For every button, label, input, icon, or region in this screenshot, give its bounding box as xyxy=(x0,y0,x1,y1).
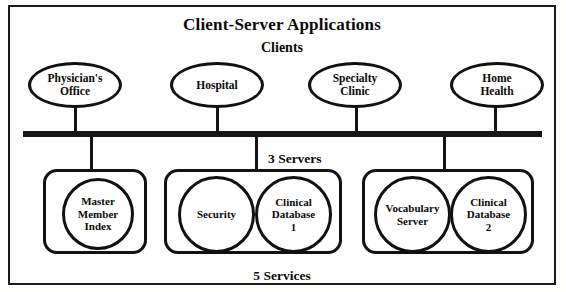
servers-caption: 3 Servers xyxy=(268,151,322,167)
service-node-clinical-database-2[interactable]: Clinical Database 2 xyxy=(450,176,527,253)
client-node-hospital[interactable]: Hospital xyxy=(170,62,264,108)
client-connector-specialty-clinic xyxy=(355,106,358,133)
client-label: Physician's Office xyxy=(48,72,103,98)
client-node-physicians-office[interactable]: Physician's Office xyxy=(28,62,122,108)
client-connector-physicians-office xyxy=(74,106,77,133)
server-drop-line-3 xyxy=(443,137,446,170)
service-label: Security xyxy=(197,208,236,221)
service-label: Master Member Index xyxy=(78,195,118,233)
client-node-specialty-clinic[interactable]: Specialty Clinic xyxy=(308,62,402,108)
server-box-2[interactable]: Security Clinical Database 1 xyxy=(164,169,342,254)
server-drop-line-1 xyxy=(90,137,93,170)
network-bus-line xyxy=(23,131,542,137)
service-node-security[interactable]: Security xyxy=(178,176,255,253)
diagram-title: Client-Server Applications xyxy=(10,15,554,35)
service-node-vocabulary-server[interactable]: Vocabulary Server xyxy=(374,176,451,253)
services-caption: 5 Services xyxy=(10,268,554,284)
screenshot-root: Client-Server Applications Clients Physi… xyxy=(0,0,566,292)
client-connector-home-health xyxy=(494,106,497,133)
server-drop-line-2 xyxy=(255,137,258,170)
clients-heading: Clients xyxy=(10,40,554,56)
service-node-master-member-index[interactable]: Master Member Index xyxy=(62,178,134,250)
service-label: Clinical Database 2 xyxy=(467,196,510,234)
client-label: Specialty Clinic xyxy=(333,72,378,98)
diagram-frame: Client-Server Applications Clients Physi… xyxy=(8,5,556,285)
client-node-home-health[interactable]: Home Health xyxy=(450,62,544,108)
service-node-clinical-database-1[interactable]: Clinical Database 1 xyxy=(255,176,332,253)
client-label: Hospital xyxy=(196,79,238,92)
service-label: Vocabulary Server xyxy=(386,202,440,227)
client-connector-hospital xyxy=(216,106,219,133)
server-box-3[interactable]: Vocabulary Server Clinical Database 2 xyxy=(362,169,534,254)
service-label: Clinical Database 1 xyxy=(272,196,315,234)
server-box-1[interactable]: Master Member Index xyxy=(43,169,147,254)
client-label: Home Health xyxy=(480,72,513,98)
